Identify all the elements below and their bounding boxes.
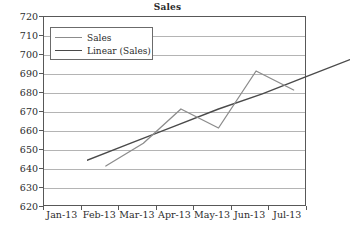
- y-axis-tick: [39, 92, 43, 93]
- x-axis-tick: [193, 206, 194, 210]
- x-axis-tick: [306, 206, 307, 210]
- y-axis-tick: [39, 130, 43, 131]
- x-axis-tick: [231, 206, 232, 210]
- y-axis-tick-label: 670: [6, 106, 38, 117]
- legend-swatch-sales-icon: [55, 37, 82, 38]
- y-axis-tick-label: 710: [6, 30, 38, 41]
- legend-swatch-trend-icon: [55, 50, 82, 51]
- x-axis-tick-label: Jul-13: [273, 209, 301, 220]
- x-axis-tick-label: Jan-13: [46, 209, 77, 220]
- x-axis-tick: [118, 206, 119, 210]
- chart-legend: Sales Linear (Sales): [50, 27, 153, 60]
- legend-item-sales: Sales: [55, 31, 148, 44]
- x-axis-tick-label: May-13: [194, 209, 230, 220]
- y-axis-tick-label: 650: [6, 144, 38, 155]
- x-axis-tick: [81, 206, 82, 210]
- legend-label-sales: Sales: [87, 33, 111, 43]
- y-axis-tick-label: 720: [6, 11, 38, 22]
- legend-item-linear-sales: Linear (Sales): [55, 44, 148, 57]
- x-axis-tick: [43, 206, 44, 210]
- y-axis-tick: [39, 168, 43, 169]
- y-axis-tick: [39, 35, 43, 36]
- y-axis-tick: [39, 187, 43, 188]
- y-axis-tick-label: 640: [6, 163, 38, 174]
- y-axis-tick: [39, 16, 43, 17]
- x-axis-tick: [156, 206, 157, 210]
- x-axis-tick-label: Mar-13: [119, 209, 154, 220]
- y-axis-tick: [39, 111, 43, 112]
- x-axis-tick: [268, 206, 269, 210]
- y-axis-tick-label: 630: [6, 182, 38, 193]
- x-axis-tick-label: Jun-13: [234, 209, 265, 220]
- y-axis-tick-label: 660: [6, 125, 38, 136]
- legend-label-linear-sales: Linear (Sales): [87, 46, 151, 56]
- y-axis-tick-label: 620: [6, 201, 38, 212]
- y-axis-tick-label: 700: [6, 49, 38, 60]
- y-axis-tick: [39, 54, 43, 55]
- x-axis-tick-label: Feb-13: [83, 209, 116, 220]
- y-axis-tick-label: 680: [6, 87, 38, 98]
- y-axis-tick-label: 690: [6, 68, 38, 79]
- x-axis-tick-label: Apr-13: [158, 209, 191, 220]
- y-axis-tick: [39, 149, 43, 150]
- y-axis-tick: [39, 73, 43, 74]
